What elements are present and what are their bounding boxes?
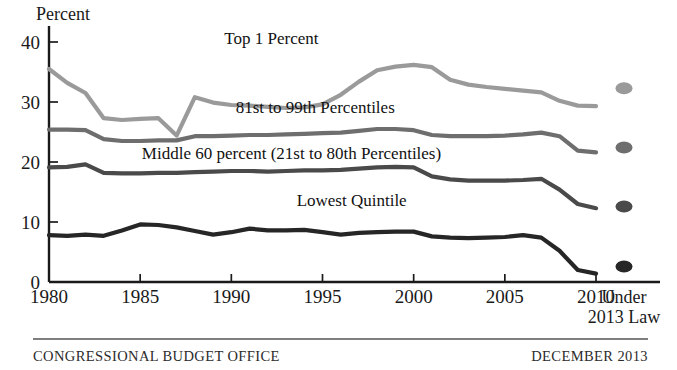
footer-left-text: CONGRESSIONAL BUDGET OFFICE xyxy=(33,348,280,364)
y-tick-label: 30 xyxy=(21,92,40,113)
series-label-3: Lowest Quintile xyxy=(297,191,407,210)
series-label-1: 81st to 99th Percentiles xyxy=(236,98,395,117)
series-line-3 xyxy=(49,224,596,273)
projection-dot-0 xyxy=(616,82,633,94)
projection-dot-1 xyxy=(616,142,633,154)
y-tick-label: 10 xyxy=(21,212,40,233)
x-tick-label: 1995 xyxy=(304,286,342,307)
y-tick-label: 20 xyxy=(21,152,40,173)
projection-dot-3 xyxy=(616,260,633,272)
series-label-2: Middle 60 percent (21st to 80th Percenti… xyxy=(142,144,441,163)
x-tick-label: 2005 xyxy=(486,286,524,307)
series-label-0: Top 1 Percent xyxy=(224,29,318,48)
y-tick-label: 40 xyxy=(21,32,40,53)
x-tick-label: 2000 xyxy=(395,286,433,307)
x-tick-label: 1990 xyxy=(212,286,250,307)
projection-label-line2: 2013 Law xyxy=(588,307,660,327)
y-axis-title: Percent xyxy=(36,4,90,24)
footer-right-text: DECEMBER 2013 xyxy=(531,348,648,364)
chart-page: 0102030401980198519901995200020052010Per… xyxy=(0,0,677,370)
x-tick-label: 1980 xyxy=(30,286,68,307)
projection-label-line1: Under xyxy=(602,287,647,307)
x-tick-label: 1985 xyxy=(121,286,159,307)
projection-dot-2 xyxy=(616,200,633,212)
cbo-line-chart: 0102030401980198519901995200020052010Per… xyxy=(0,0,677,370)
